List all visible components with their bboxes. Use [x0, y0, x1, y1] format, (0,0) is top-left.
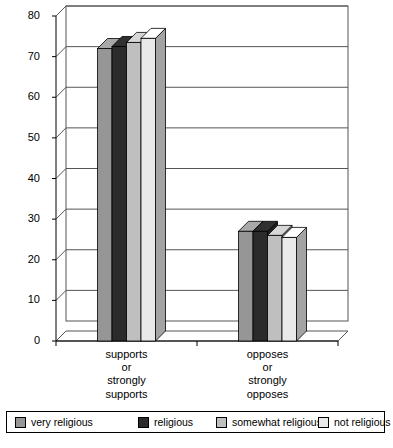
x-axis-category-label: supportsorstronglysupports: [72, 348, 182, 401]
y-axis-tick-label: 40: [12, 173, 40, 184]
category-label-line: strongly: [213, 374, 323, 387]
grid-depth-connector: [56, 87, 66, 97]
grid-depth-connector: [56, 290, 66, 300]
legend-swatch-icon: [15, 417, 26, 428]
category-label-line: or: [72, 361, 182, 374]
category-label-line: opposes: [213, 388, 323, 401]
y-axis-tick-label: 70: [12, 51, 40, 62]
legend-label: somewhat religious: [232, 416, 322, 428]
bar-side-face: [156, 28, 166, 341]
x-axis-category-label: opposesorstronglyopposes: [213, 348, 323, 401]
y-axis-tick-label: 0: [12, 335, 40, 346]
bar-front-face: [98, 49, 113, 342]
legend-item-2[interactable]: somewhat religious: [216, 412, 322, 432]
legend-item-1[interactable]: religious: [138, 412, 193, 432]
y-axis-tick-label: 50: [12, 132, 40, 143]
bar-3: [141, 28, 166, 341]
bar-chart: 01020304050607080supportsorstronglysuppo…: [0, 0, 393, 400]
category-label-line: strongly: [72, 374, 182, 387]
bar-front-face: [112, 46, 127, 341]
legend-label: very religious: [31, 416, 93, 428]
grid-depth-connector: [56, 209, 66, 219]
legend-swatch-icon: [138, 417, 149, 428]
grid-depth-connector: [56, 47, 66, 57]
legend-item-0[interactable]: very religious: [15, 412, 93, 432]
bar-side-face: [297, 227, 307, 341]
category-label-line: opposes: [213, 348, 323, 361]
legend-label: religious: [154, 416, 193, 428]
grid-depth-connector: [56, 169, 66, 179]
y-axis-tick-label: 80: [12, 10, 40, 21]
legend-swatch-icon: [216, 417, 227, 428]
grid-depth-connector: [56, 128, 66, 138]
bar-front-face: [253, 231, 268, 341]
category-label-line: supports: [72, 348, 182, 361]
category-label-line: or: [213, 361, 323, 374]
y-axis-tick-label: 60: [12, 91, 40, 102]
bar-3: [282, 227, 307, 341]
bar-front-face: [239, 231, 254, 341]
y-axis-tick-label: 30: [12, 213, 40, 224]
legend-swatch-icon: [318, 417, 329, 428]
bar-front-face: [141, 38, 156, 341]
bar-front-face: [127, 42, 142, 341]
grid-depth-connector: [56, 6, 66, 16]
category-label-line: supports: [72, 388, 182, 401]
y-axis-tick-label: 20: [12, 254, 40, 265]
legend-label: not religious: [334, 416, 391, 428]
plot-area: [0, 0, 393, 400]
y-axis-tick-label: 10: [12, 294, 40, 305]
chart-legend: very religiousreligioussomewhat religiou…: [6, 411, 385, 433]
bar-front-face: [268, 235, 283, 341]
bar-front-face: [282, 237, 297, 341]
legend-item-3[interactable]: not religious: [318, 412, 391, 432]
grid-depth-connector: [56, 250, 66, 260]
